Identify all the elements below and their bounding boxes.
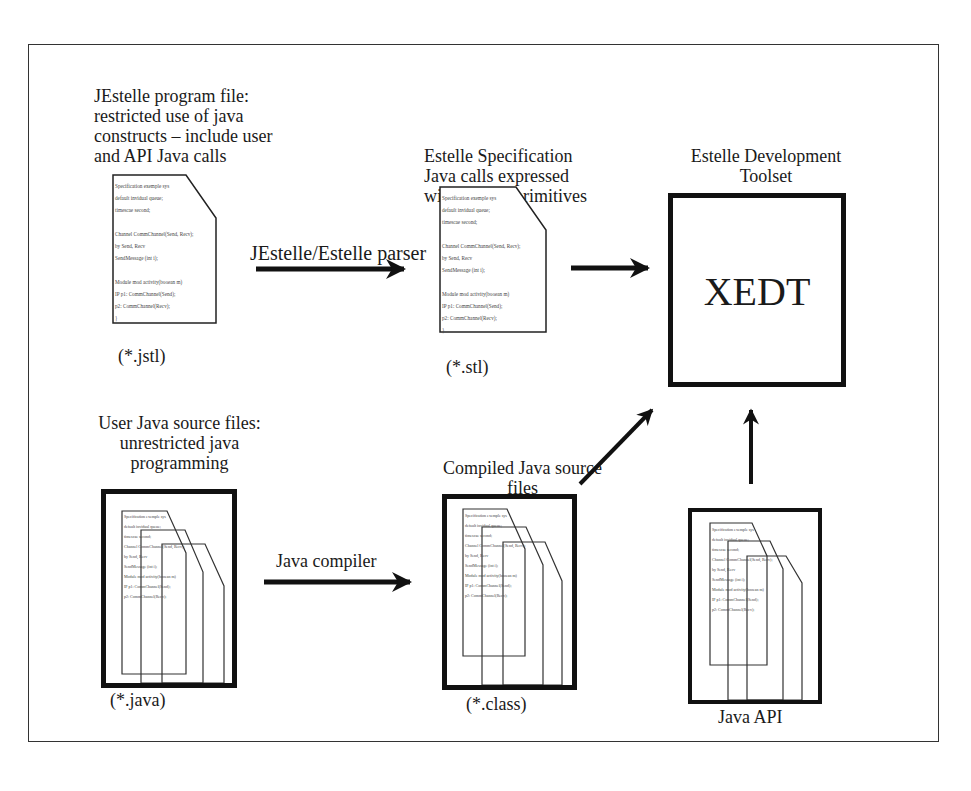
class-to-xedt-arrow — [580, 410, 652, 484]
arrows-layer — [0, 0, 971, 791]
